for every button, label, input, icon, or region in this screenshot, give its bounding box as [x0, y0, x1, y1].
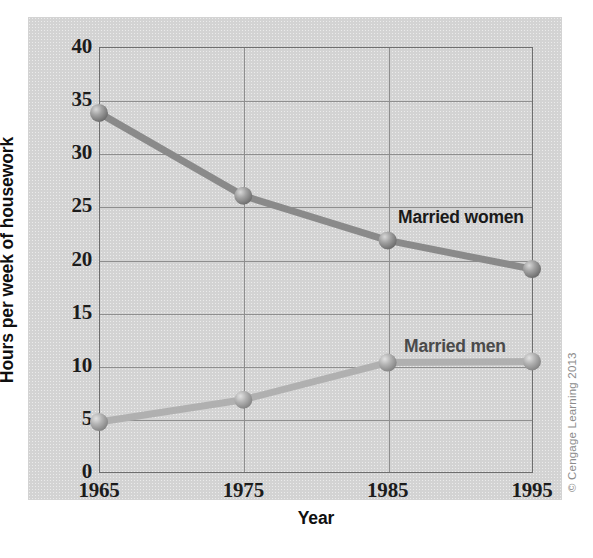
series-label-married-men: Married men: [404, 336, 506, 357]
y-axis-tick-40: 40: [44, 34, 92, 59]
x-axis-tick-1975: 1975: [223, 478, 264, 503]
gridline-horizontal: [100, 367, 532, 368]
gridline-vertical: [244, 48, 245, 472]
gridline-horizontal: [100, 314, 532, 315]
chart-figure: 0510152025303540 1965197519851995 Hours …: [0, 0, 593, 558]
y-axis-tick-5: 5: [44, 406, 92, 431]
y-axis-tick-10: 10: [44, 353, 92, 378]
y-axis-tick-20: 20: [44, 247, 92, 272]
plot-area: [99, 47, 533, 473]
copyright-credit: © Cengage Learning 2013: [566, 292, 578, 492]
x-axis-tick-1985: 1985: [367, 478, 408, 503]
x-axis-tick-1995: 1995: [511, 478, 552, 503]
y-axis-label: Hours per week of housework: [0, 47, 20, 473]
gridline-horizontal: [100, 261, 532, 262]
gridline-horizontal: [100, 101, 532, 102]
gridline-horizontal: [100, 154, 532, 155]
series-label-married-women: Married women: [398, 207, 524, 228]
x-axis-tick-1965: 1965: [78, 478, 119, 503]
x-axis-label: Year: [99, 508, 533, 529]
y-axis-tick-30: 30: [44, 140, 92, 165]
y-axis-tick-15: 15: [44, 300, 92, 325]
y-axis-tick-25: 25: [44, 193, 92, 218]
gridline-vertical: [389, 48, 390, 472]
gridline-horizontal: [100, 420, 532, 421]
y-axis-tick-35: 35: [44, 87, 92, 112]
